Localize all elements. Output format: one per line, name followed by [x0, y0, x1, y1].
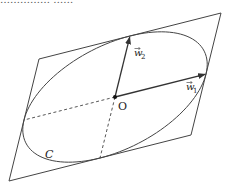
origin-point [113, 95, 117, 99]
w1-label: w 1 [186, 81, 197, 95]
vector-w2-arrow [115, 37, 130, 97]
dashed-neg-w2 [100, 97, 115, 158]
svg-text:2: 2 [141, 53, 145, 61]
w2-label: w 2 [134, 47, 145, 61]
origin-label: O [118, 100, 127, 113]
dashed-neg-w1 [24, 97, 115, 120]
svg-text:1: 1 [193, 87, 197, 95]
curve-label-c: C [45, 148, 54, 161]
ellipse-parallelogram-diagram: O w 1 w 2 C [0, 0, 230, 190]
